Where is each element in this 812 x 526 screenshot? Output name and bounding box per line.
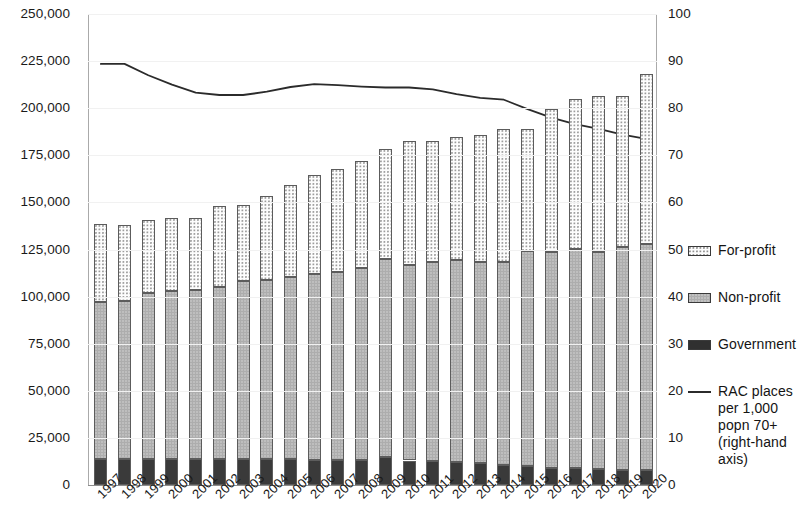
- bar-segment-for-profit[interactable]: [260, 196, 273, 280]
- bar-segment-non-profit[interactable]: [426, 262, 439, 462]
- y-tick-right: 30: [668, 337, 683, 351]
- legend-item-rac-places-per-1-000-popn-70-right-hand-axis[interactable]: RAC places per 1,000 popn 70+ (right-han…: [688, 383, 812, 468]
- bar-segment-for-profit[interactable]: [355, 161, 368, 268]
- y-tick-left: 225,000: [21, 54, 71, 68]
- dotted-square-icon: [688, 246, 711, 256]
- bar-segment-non-profit[interactable]: [331, 272, 344, 459]
- bar-segment-for-profit[interactable]: [379, 149, 392, 259]
- gridline: [88, 14, 657, 15]
- bar-segment-for-profit[interactable]: [592, 96, 605, 252]
- bar-segment-for-profit[interactable]: [569, 99, 582, 249]
- y-tick-left: 250,000: [21, 7, 71, 21]
- chart-container: 025,00050,00075,000100,000125,000150,000…: [0, 0, 812, 526]
- gridline: [88, 61, 657, 62]
- y-tick-left: 175,000: [21, 148, 71, 162]
- y-tick-left: 100,000: [21, 290, 71, 304]
- line-segment-icon: [688, 387, 711, 397]
- gridline: [88, 250, 657, 251]
- y-tick-left: 75,000: [28, 337, 70, 351]
- y-axis-left: 025,00050,00075,000100,000125,000150,000…: [0, 0, 78, 526]
- bar-segment-non-profit[interactable]: [260, 280, 273, 459]
- bar-segment-for-profit[interactable]: [331, 169, 344, 273]
- y-tick-right: 40: [668, 290, 683, 304]
- bar-segment-for-profit[interactable]: [118, 225, 131, 301]
- bar-segment-non-profit[interactable]: [379, 259, 392, 457]
- grey-square-icon: [688, 293, 711, 303]
- y-tick-left: 25,000: [28, 431, 70, 445]
- bar-segment-non-profit[interactable]: [142, 293, 155, 459]
- bar-segment-for-profit[interactable]: [521, 129, 534, 251]
- y-tick-left: 200,000: [21, 101, 71, 115]
- legend-label: For-profit: [718, 242, 776, 259]
- bar-segment-for-profit[interactable]: [474, 135, 487, 262]
- dark-square-icon: [688, 340, 711, 350]
- legend-label: Government: [718, 336, 796, 353]
- legend-label: Non-profit: [718, 289, 780, 306]
- y-tick-right: 70: [668, 148, 683, 162]
- legend-item-for-profit[interactable]: For-profit: [688, 242, 812, 259]
- bar-segment-non-profit[interactable]: [521, 251, 534, 466]
- bar-segment-for-profit[interactable]: [497, 129, 510, 262]
- bar-segment-non-profit[interactable]: [284, 277, 297, 459]
- y-tick-right: 10: [668, 431, 683, 445]
- y-tick-right: 90: [668, 54, 683, 68]
- bar-segment-for-profit[interactable]: [616, 96, 629, 248]
- gridline: [88, 297, 657, 298]
- bar-segment-non-profit[interactable]: [165, 291, 178, 459]
- gridline: [88, 108, 657, 109]
- gridline: [88, 438, 657, 439]
- bar-segment-non-profit[interactable]: [497, 262, 510, 465]
- legend-item-non-profit[interactable]: Non-profit: [688, 289, 812, 306]
- y-tick-right: 20: [668, 384, 683, 398]
- legend-label: RAC places per 1,000 popn 70+ (right-han…: [718, 383, 812, 468]
- y-tick-left: 50,000: [28, 384, 70, 398]
- bar-segment-non-profit[interactable]: [308, 274, 321, 460]
- bar-segment-for-profit[interactable]: [213, 206, 226, 286]
- bar-segment-non-profit[interactable]: [118, 301, 131, 458]
- bar-segment-non-profit[interactable]: [403, 265, 416, 461]
- gridline: [88, 344, 657, 345]
- bar-segment-non-profit[interactable]: [213, 287, 226, 459]
- bar-segment-for-profit[interactable]: [545, 109, 558, 252]
- bar-segment-for-profit[interactable]: [308, 175, 321, 274]
- bar-segment-non-profit[interactable]: [592, 252, 605, 469]
- bar-segment-for-profit[interactable]: [640, 74, 653, 244]
- bar-segment-non-profit[interactable]: [94, 302, 107, 458]
- bar-segment-non-profit[interactable]: [616, 247, 629, 469]
- bar-segment-for-profit[interactable]: [165, 218, 178, 291]
- y-tick-left: 150,000: [21, 195, 71, 209]
- bar-segment-non-profit[interactable]: [569, 249, 582, 468]
- bar-segment-for-profit[interactable]: [142, 220, 155, 293]
- y-tick-right: 100: [668, 7, 691, 21]
- bar-segment-non-profit[interactable]: [189, 290, 202, 459]
- bar-segment-for-profit[interactable]: [94, 224, 107, 302]
- y-tick-right: 60: [668, 195, 683, 209]
- x-axis-labels: 1997199819992000200120022003200420052006…: [88, 487, 657, 526]
- gridline: [88, 155, 657, 156]
- bar-segment-non-profit[interactable]: [237, 281, 250, 459]
- bar-segment-non-profit[interactable]: [640, 244, 653, 470]
- y-tick-right: 80: [668, 101, 683, 115]
- bar-segment-for-profit[interactable]: [237, 205, 250, 281]
- bar-segment-non-profit[interactable]: [450, 260, 463, 463]
- bar-segment-non-profit[interactable]: [545, 252, 558, 468]
- bar-segment-for-profit[interactable]: [284, 185, 297, 278]
- legend-item-government[interactable]: Government: [688, 336, 812, 353]
- bar-segment-for-profit[interactable]: [189, 218, 202, 290]
- bar-segment-non-profit[interactable]: [474, 262, 487, 464]
- y-tick-right: 50: [668, 243, 683, 257]
- y-tick-left: 125,000: [21, 243, 71, 257]
- y-tick-left: 0: [62, 478, 70, 492]
- gridline: [88, 202, 657, 203]
- gridline: [88, 391, 657, 392]
